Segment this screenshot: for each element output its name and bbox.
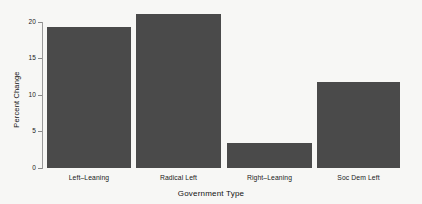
y-tick-label-5: 5 [32,128,36,135]
bar-soc-dem-left [317,82,400,168]
y-tick-label-15: 15 [29,55,36,62]
y-tick-mark-15 [38,58,42,59]
y-axis: 20 15 10 5 0 [0,0,45,204]
x-tick-label-left-leaning: Left–Leaning [47,174,131,181]
y-tick-mark-0 [38,168,42,169]
bar-radical-left [136,14,221,168]
x-tick-label-radical-left: Radical Left [136,174,221,181]
x-axis-title: Government Type [0,189,422,198]
bar-left-leaning [47,27,131,168]
y-axis-line [42,22,43,169]
bar-right-leaning [227,143,312,168]
y-tick-mark-5 [38,131,42,132]
y-axis-title: Percent Change [12,40,21,160]
y-tick-label-20: 20 [29,19,36,26]
x-tick-label-soc-dem-left: Soc Dem Left [317,174,400,181]
x-tick-label-right-leaning: Right–Leaning [227,174,312,181]
y-tick-label-0: 0 [32,165,36,172]
y-tick-mark-20 [38,22,42,23]
bar-chart-figure: 20 15 10 5 0 Percent Change Left–Leaning… [0,0,422,204]
y-tick-mark-10 [38,95,42,96]
plot-area [45,10,402,168]
y-tick-label-10: 10 [29,92,36,99]
